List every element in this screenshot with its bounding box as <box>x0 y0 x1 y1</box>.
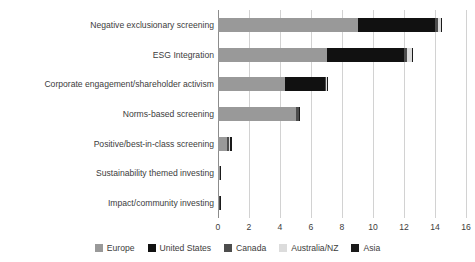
category-label: ESG Integration <box>2 50 214 60</box>
legend-swatch-icon <box>279 244 287 252</box>
category-label: Norms-based screening <box>2 109 214 119</box>
category-label: Positive/best-in-class screening <box>2 139 214 149</box>
bar-segment <box>218 137 227 151</box>
legend-label: Asia <box>363 243 380 253</box>
x-tick-label: 6 <box>309 221 314 233</box>
bar-segment <box>327 48 405 62</box>
gridline <box>466 10 467 218</box>
legend-label: Europe <box>107 243 135 253</box>
legend-swatch-icon <box>351 244 359 252</box>
bar-segment <box>218 107 296 121</box>
gridline <box>342 10 343 218</box>
bar-row <box>218 18 442 32</box>
legend-swatch-icon <box>95 244 103 252</box>
x-tick-label: 4 <box>278 221 283 233</box>
gridline <box>311 10 312 218</box>
x-tick-label: 8 <box>340 221 345 233</box>
legend-item[interactable]: United States <box>148 243 212 253</box>
category-label: Sustainability themed investing <box>2 168 214 178</box>
x-axis-tick-labels: 0246810121416 <box>218 221 466 235</box>
bar-row <box>218 196 220 210</box>
plot-area <box>218 10 466 218</box>
bar-segment <box>218 18 358 32</box>
legend-item[interactable]: Europe <box>95 243 135 253</box>
legend-label: United States <box>160 243 212 253</box>
legend-label: Australia/NZ <box>291 243 338 253</box>
gridline <box>435 10 436 218</box>
x-tick-label: 10 <box>368 221 378 233</box>
bar-segment <box>218 48 327 62</box>
bar-segment <box>285 77 325 91</box>
gridline <box>404 10 405 218</box>
category-label: Corporate engagement/shareholder activis… <box>2 79 214 89</box>
bar-chart: Negative exclusionary screeningESG Integ… <box>0 0 475 262</box>
legend-swatch-icon <box>148 244 156 252</box>
x-tick-label: 12 <box>399 221 409 233</box>
bar-segment <box>358 18 436 32</box>
bar-segment <box>299 107 300 121</box>
bar-row <box>218 77 328 91</box>
legend-label: Canada <box>236 243 266 253</box>
category-label: Negative exclusionary screening <box>2 20 214 30</box>
chart-legend: EuropeUnited StatesCanadaAustralia/NZAsi… <box>0 240 475 256</box>
category-label: Impact/community investing <box>2 198 214 208</box>
legend-item[interactable]: Asia <box>351 243 380 253</box>
x-tick-label: 2 <box>247 221 252 233</box>
bar-row <box>218 48 413 62</box>
bar-row <box>218 166 220 180</box>
category-axis-labels: Negative exclusionary screeningESG Integ… <box>0 10 214 218</box>
x-tick-label: 14 <box>430 221 440 233</box>
bar-row <box>218 137 232 151</box>
legend-item[interactable]: Australia/NZ <box>279 243 338 253</box>
x-tick-label: 0 <box>216 221 221 233</box>
bar-segment <box>218 77 285 91</box>
gridline <box>373 10 374 218</box>
bar-segment <box>441 18 442 32</box>
bar-segment <box>230 137 232 151</box>
legend-item[interactable]: Canada <box>224 243 266 253</box>
bar-segment <box>412 48 413 62</box>
bar-row <box>218 107 300 121</box>
legend-swatch-icon <box>224 244 232 252</box>
x-tick-label: 16 <box>461 221 471 233</box>
bar-segment <box>327 77 328 91</box>
